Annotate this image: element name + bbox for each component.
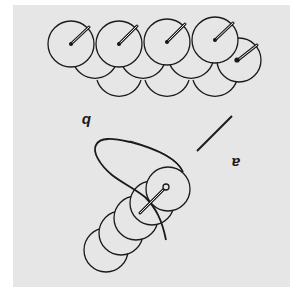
label-a: a <box>232 155 240 172</box>
thread-segment <box>197 116 232 151</box>
sequin-row-3 <box>97 80 237 96</box>
sequin-row-2 <box>73 62 213 78</box>
sequin-diagram: b a <box>0 0 304 298</box>
label-b: b <box>82 113 91 130</box>
sequin-stack <box>84 167 190 272</box>
